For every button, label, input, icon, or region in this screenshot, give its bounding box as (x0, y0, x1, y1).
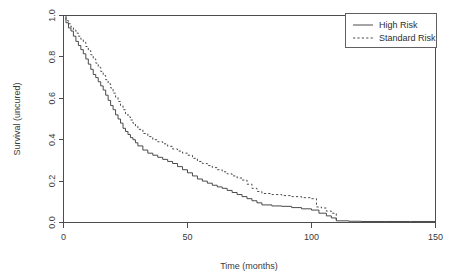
y-tick-label: 1.0 (47, 9, 57, 22)
x-tick-label: 0 (61, 232, 66, 242)
y-tick-label: 0.4 (47, 133, 57, 146)
survival-plot-figure: 050100150 0.00.20.40.60.81.0 Time (month… (0, 0, 458, 279)
y-tick-label: 0.6 (47, 92, 57, 105)
legend-label-standard-risk: Standard Risk (379, 33, 436, 43)
x-tick-label: 50 (182, 232, 192, 242)
y-tick-label: 0.2 (47, 175, 57, 188)
series-standard-risk (64, 16, 337, 221)
y-tick-label: 0.8 (47, 51, 57, 64)
chart-legend: High Risk Standard Risk (346, 14, 437, 48)
y-axis-ticks: 0.00.20.40.60.81.0 (47, 9, 64, 229)
x-axis-ticks: 050100150 (61, 223, 443, 242)
chart-canvas: 050100150 0.00.20.40.60.81.0 Time (month… (0, 0, 458, 279)
x-tick-label: 150 (428, 232, 443, 242)
y-tick-label: 0.0 (47, 216, 57, 229)
x-tick-label: 100 (304, 232, 319, 242)
x-axis-title: Time (months) (220, 261, 278, 271)
legend-label-high-risk: High Risk (379, 20, 418, 30)
y-axis-title: Survival (uncured) (12, 82, 22, 155)
